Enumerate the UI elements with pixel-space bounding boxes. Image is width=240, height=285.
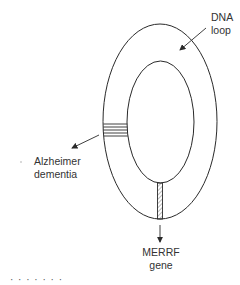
cut-off-caption: · · · · · · · — [10, 274, 63, 285]
dna-loop-label-line1: DNA — [211, 11, 233, 24]
dna-loop-label: DNA loop — [211, 11, 233, 36]
alzheimer-arrow — [72, 135, 99, 148]
alzheimer-striped-band — [103, 124, 127, 136]
inner-dna-loop — [127, 61, 194, 183]
alzheimer-label-line2: dementia — [34, 168, 81, 181]
merrf-hatched-band — [158, 183, 163, 219]
merrf-label-line1: MERRF — [141, 246, 181, 259]
merrf-label-line2: gene — [141, 259, 181, 272]
dna-loop-label-line2: loop — [211, 24, 233, 37]
merrf-label: MERRF gene — [141, 246, 181, 271]
alzheimer-label: Alzheimer dementia — [34, 155, 81, 180]
dna-loop-arrow — [180, 28, 206, 50]
stray-mark — [20, 161, 22, 163]
alzheimer-label-line1: Alzheimer — [34, 155, 81, 168]
